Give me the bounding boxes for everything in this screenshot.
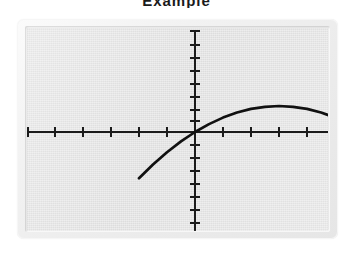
parabola-graph <box>27 28 328 231</box>
x-axis-group <box>27 127 328 137</box>
parabola-curve <box>139 106 328 178</box>
clipped-title-remnant: Example <box>0 0 353 8</box>
calculator-lcd-plot-area <box>27 28 328 231</box>
screenshot-root: Example <box>0 0 353 257</box>
calculator-bezel <box>17 19 338 239</box>
clipped-title-text: Example <box>0 0 353 6</box>
